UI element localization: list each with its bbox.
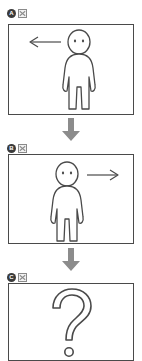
down-arrow-icon	[61, 118, 81, 142]
panel-b-frame	[8, 154, 134, 244]
panel-a-label: A	[7, 8, 27, 18]
panel-c-label: C	[7, 272, 27, 282]
panel-c-scene	[9, 284, 133, 360]
panel-a-frame	[8, 24, 134, 115]
question-mark-drawing	[9, 284, 133, 360]
boxed-x-icon	[18, 273, 27, 282]
connector-b-c	[0, 248, 142, 272]
person-left-arrow-drawing	[9, 25, 133, 114]
panel-b-label: B	[7, 143, 27, 153]
person-right-arrow-drawing	[9, 155, 133, 243]
panel-a-scene	[9, 25, 133, 114]
panel-c-frame	[8, 283, 134, 361]
down-arrow-icon	[61, 248, 81, 272]
left-arrow-icon	[30, 37, 61, 47]
connector-a-b	[0, 118, 142, 142]
question-mark-icon	[53, 289, 91, 356]
panel-b-letter-badge: B	[7, 144, 16, 153]
person-figure	[63, 30, 95, 109]
panel-c-letter-badge: C	[7, 273, 16, 282]
person-figure	[51, 162, 83, 241]
panel-b-scene	[9, 155, 133, 243]
panel-a-letter-badge: A	[7, 9, 16, 18]
boxed-x-icon	[18, 9, 27, 18]
right-arrow-icon	[87, 170, 118, 180]
boxed-x-icon	[18, 144, 27, 153]
